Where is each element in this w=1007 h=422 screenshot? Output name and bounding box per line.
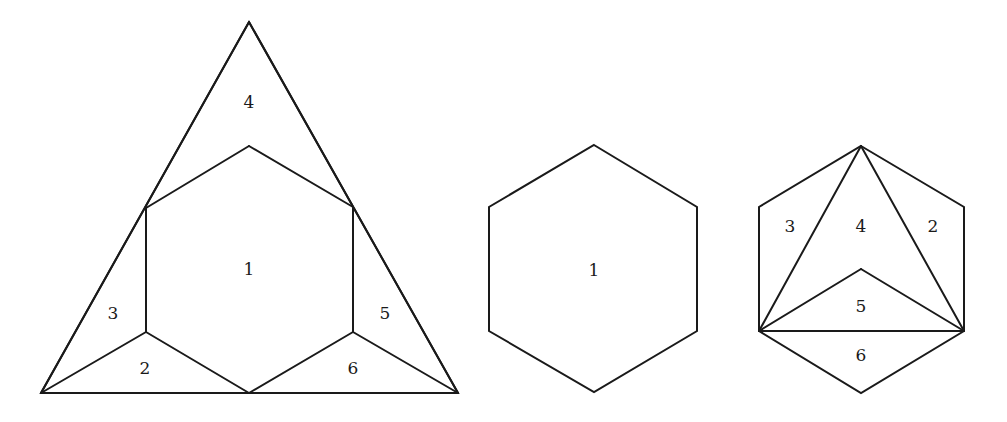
cut-line [41, 22, 249, 393]
cut-line [146, 332, 249, 393]
cut-line [41, 332, 146, 393]
cut-line [759, 146, 861, 331]
cut-line [353, 332, 458, 393]
piece-label-4: 4 [244, 92, 255, 112]
piece-label-1: 1 [244, 259, 255, 279]
cut-line [249, 332, 353, 393]
piece-label-3: 3 [108, 303, 119, 323]
piece-label-5: 5 [856, 296, 867, 316]
piece-label-4: 4 [856, 216, 867, 236]
figure-triangle-dissection: 413256 [41, 22, 458, 393]
cut-line [249, 146, 353, 207]
piece-label-6: 6 [856, 345, 867, 365]
piece-label-2: 2 [928, 216, 939, 236]
piece-label-5: 5 [380, 303, 391, 323]
piece-label-3: 3 [785, 216, 796, 236]
piece-label-2: 2 [140, 358, 151, 378]
cut-line [861, 146, 964, 331]
figure-hexagon-plain: 1 [489, 145, 697, 392]
figure-hexagon-reassembled: 34256 [759, 146, 964, 393]
piece-label-1: 1 [589, 260, 600, 280]
triangle-dissection-outline [41, 22, 458, 393]
cut-line [861, 269, 964, 331]
piece-label-6: 6 [348, 358, 359, 378]
dissection-diagram: 413256 1 34256 [0, 0, 1007, 422]
cut-line [759, 269, 861, 331]
